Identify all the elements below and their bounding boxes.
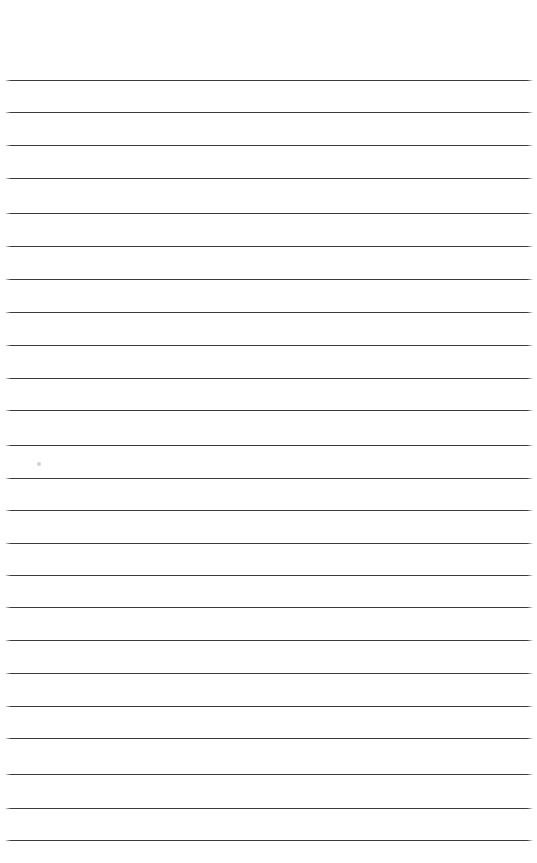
ruled-line [5, 246, 533, 247]
ruled-line [5, 345, 533, 346]
ruled-line [5, 673, 533, 674]
ruled-line [5, 213, 533, 214]
ruled-line [5, 774, 533, 775]
ruled-line [5, 738, 533, 739]
scanned-page [0, 0, 537, 863]
ruled-line [5, 640, 533, 641]
ruled-line [5, 178, 533, 179]
ruled-line [5, 312, 533, 313]
ruled-line [5, 80, 533, 81]
ruled-line [5, 607, 533, 608]
ruled-line [5, 410, 533, 411]
ruled-line [5, 510, 533, 511]
faint-pencil-smudge [37, 462, 41, 466]
ruled-line [5, 478, 533, 479]
ruled-line [5, 445, 533, 446]
ruled-line [5, 706, 533, 707]
ruled-line [5, 279, 533, 280]
ruled-line [5, 378, 533, 379]
ruled-line [5, 840, 533, 841]
ruled-line [5, 575, 533, 576]
ruled-line [5, 112, 533, 113]
ruled-line [5, 543, 533, 544]
ruled-line [5, 808, 533, 809]
ruled-line [5, 145, 533, 146]
